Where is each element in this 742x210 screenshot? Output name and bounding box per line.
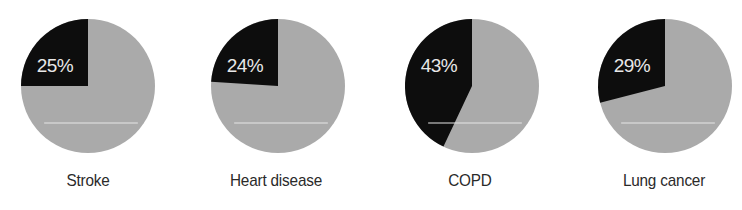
pie-heart-disease: 24% (211, 19, 345, 153)
pie-percent-label: 43% (421, 55, 458, 76)
pie-label-lung-cancer: Lung cancer (592, 171, 736, 191)
pie-percent-label: 24% (227, 55, 264, 76)
pie-label-stroke: Stroke (16, 171, 160, 191)
pie-percent-label: 25% (37, 55, 74, 76)
pie-lung-cancer: 29% (598, 19, 732, 153)
pie-stroke: 25% (21, 19, 155, 153)
pie-label-heart-disease: Heart disease (204, 171, 348, 191)
pie-percent-label: 29% (614, 55, 651, 76)
pie-label-copd: COPD (398, 171, 542, 191)
pie-copd: 43% (405, 19, 539, 153)
